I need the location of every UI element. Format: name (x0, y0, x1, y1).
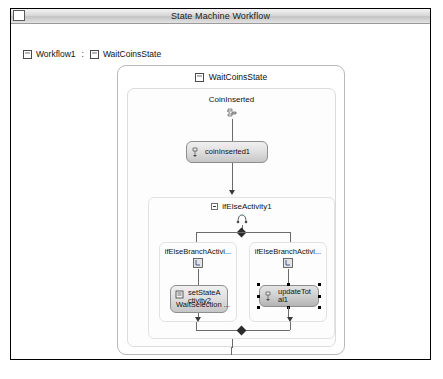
ifelse-branch-icon (193, 258, 203, 268)
branch-label: ifElseBranchActivi... (160, 247, 236, 256)
breadcrumb-item-root[interactable]: Workflow1 (23, 49, 76, 59)
ifelse-header: ifElseActivity1 (149, 202, 334, 211)
state-name-label: WaitCoinsState (209, 72, 267, 82)
activity-setstateactivity2[interactable]: setStateActivity2 WaitSelection ... (170, 285, 228, 313)
activity-label: coinInserted1 (205, 148, 250, 156)
event-driven-label: CoinInserted (128, 95, 335, 104)
arrow-icon (229, 190, 235, 195)
activity-subtitle: WaitSelection ... (176, 300, 230, 309)
merge-node (237, 326, 247, 336)
selection-handle[interactable] (318, 306, 321, 309)
activity-label: updateTotal1 (278, 288, 314, 304)
ifelse-icon (236, 214, 248, 224)
breadcrumb: Workflow1 : WaitCoinsState (23, 49, 161, 59)
workflow-canvas[interactable]: Workflow1 : WaitCoinsState WaitCoinsStat… (12, 25, 429, 358)
selection-handle[interactable] (318, 295, 321, 298)
window-title: State Machine Workflow (11, 10, 430, 22)
selection-handle[interactable] (257, 306, 260, 309)
activity-coininserted1[interactable]: coinInserted1 (186, 141, 268, 163)
connector-line (232, 119, 233, 141)
breadcrumb-root-label: Workflow1 (36, 49, 76, 59)
window-titlebar[interactable]: State Machine Workflow (11, 9, 430, 24)
connector-line (196, 232, 290, 233)
selection-handle[interactable] (257, 283, 260, 286)
ifelse-activity-container[interactable]: ifElseActivity1 (148, 197, 335, 339)
ifelse-name-label: ifElseActivity1 (222, 202, 271, 211)
state-header: WaitCoinsState (118, 72, 344, 82)
handle-external-event-icon (191, 147, 202, 158)
event-driven-icon (226, 107, 238, 118)
selection-handle[interactable] (287, 283, 290, 286)
breadcrumb-item-current[interactable]: WaitCoinsState (90, 49, 161, 59)
breadcrumb-current-label: WaitCoinsState (103, 49, 161, 59)
state-machine-workflow-window: State Machine Workflow Workflow1 : WaitC… (10, 8, 431, 360)
collapse-minus-icon[interactable] (211, 203, 218, 210)
handle-external-event-icon (264, 291, 275, 302)
state-activity-container[interactable]: WaitCoinsState CoinInserted (117, 65, 345, 355)
connector-line (232, 163, 233, 191)
workflow-icon (23, 50, 32, 59)
connector-line (290, 232, 291, 242)
ifelse-branch-icon (283, 258, 293, 268)
ifelse-branch-left[interactable]: ifElseBranchActivi... (159, 242, 237, 322)
state-icon (195, 73, 204, 82)
connector-line (231, 347, 232, 355)
connector-line (290, 322, 291, 330)
event-driven-container[interactable]: CoinInserted (127, 88, 336, 347)
set-state-icon (175, 290, 185, 300)
state-icon (90, 50, 99, 59)
activity-updatetotal1[interactable]: updateTotal1 (259, 285, 319, 307)
selection-handle[interactable] (318, 283, 321, 286)
branch-label: ifElseBranchActivi... (250, 247, 326, 256)
connector-line (198, 269, 199, 285)
breadcrumb-separator: : (81, 49, 85, 59)
connector-line (196, 232, 197, 242)
selection-handle[interactable] (257, 295, 260, 298)
workflow-designer-screen: State Machine Workflow Workflow1 : WaitC… (0, 0, 443, 379)
ifelse-branch-right[interactable]: ifElseBranchActivi... (249, 242, 327, 322)
connector-line (196, 322, 197, 330)
